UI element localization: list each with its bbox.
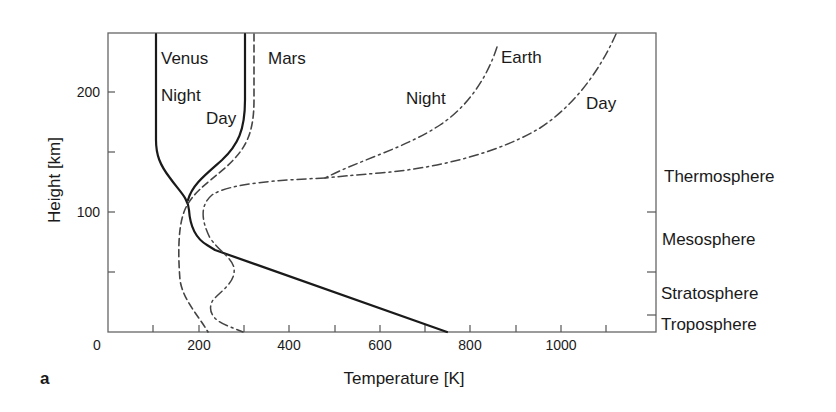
x-tick-labels: 0 200 400 600 800 1000 [93,337,577,353]
label-venus-night: Night [161,86,201,105]
layer-labels: Thermosphere Mesosphere Stratosphere Tro… [661,167,775,334]
earth-day-line [325,34,616,178]
label-venus-day: Day [206,109,237,128]
curves [156,34,616,332]
y-tick-label: 100 [77,204,101,220]
y-tick-label: 200 [77,84,101,100]
x-axis-ticks [153,325,606,332]
x-tick-label: 0 [93,337,101,353]
layer-stratosphere: Stratosphere [661,284,758,303]
x-tick-label: 800 [458,337,482,353]
mars-line [179,34,254,332]
x-tick-label: 200 [187,337,211,353]
y-tick-labels: 200 100 [77,84,101,220]
layer-mesosphere: Mesosphere [662,230,756,249]
y-axis-title: Height [km] [45,137,64,223]
earth-night-line [325,47,497,178]
layer-thermosphere: Thermosphere [664,167,775,186]
layer-boundary-ticks [647,212,656,315]
label-mars: Mars [268,49,306,68]
venus-night-line [156,34,447,332]
plot-frame [108,33,656,332]
label-earth: Earth [501,48,542,67]
x-tick-label: 1000 [545,337,576,353]
layer-troposphere: Troposphere [661,315,757,334]
x-axis-title: Temperature [K] [344,369,465,388]
y-axis-ticks [108,92,115,272]
panel-label: a [40,369,50,388]
x-tick-label: 600 [368,337,392,353]
chart: 0 200 400 600 800 1000 200 100 Temperatu… [0,0,836,412]
earth-lower-line [203,178,325,332]
x-tick-label: 400 [277,337,301,353]
label-venus: Venus [161,49,208,68]
label-earth-day: Day [586,94,617,113]
label-earth-night: Night [406,89,446,108]
curve-labels: Venus Night Day Mars Earth Night Day [161,48,617,128]
